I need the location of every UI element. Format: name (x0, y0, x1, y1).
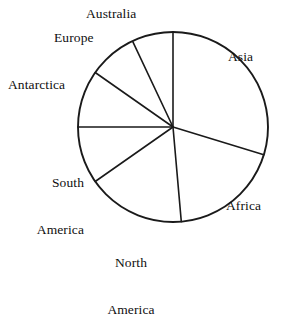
pie-label-south-america-line2: America (22, 222, 84, 238)
pie-label-africa: Africa (226, 198, 261, 214)
pie-label-europe: Europe (54, 30, 94, 46)
pie-label-australia: Australia (86, 6, 136, 22)
pie-label-south-america-line1: South (22, 175, 84, 191)
pie-label-south-america: South America (22, 144, 84, 268)
pie-label-north-america: North America (88, 224, 174, 318)
pie-label-antarctica: Antarctica (8, 77, 65, 93)
pie-label-north-america-line1: North (88, 255, 174, 271)
pie-label-asia: Asia (228, 49, 253, 65)
pie-label-north-america-line2: America (88, 302, 174, 318)
